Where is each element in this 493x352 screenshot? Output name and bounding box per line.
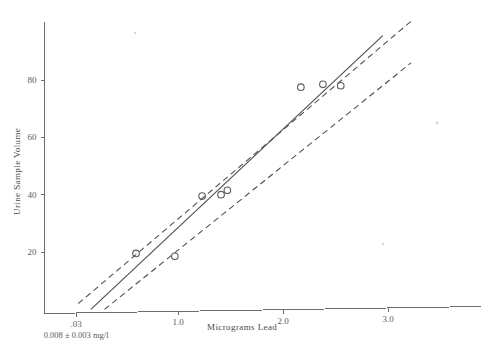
- paper-speck-icon: [382, 243, 385, 246]
- paper-speck-icon: [134, 32, 136, 34]
- x-tick-label: 3.0: [382, 314, 394, 324]
- y-tick-label: 60: [28, 132, 38, 142]
- regression-line: [91, 36, 383, 310]
- scatter-plot: 20406080 .031.02.03.0 Urine Sample Volum…: [0, 0, 493, 352]
- data-point-marker: [224, 187, 231, 194]
- paper-speck-icon: [436, 122, 439, 125]
- data-point-marker: [218, 191, 225, 198]
- x-axis-title: Micrograms Lead: [207, 322, 277, 332]
- data-point-marker: [298, 84, 305, 91]
- y-tick-label: 40: [28, 190, 38, 200]
- data-point-marker: [172, 253, 179, 260]
- concentration-annotation: 0.008 ± 0.003 mg/l: [44, 330, 110, 340]
- x-tick-label: 2.0: [277, 316, 289, 326]
- lower-confidence-band: [105, 63, 412, 310]
- x-tick-label: .03: [71, 319, 83, 329]
- y-tick-label: 80: [28, 75, 38, 85]
- chart-page: 20406080 .031.02.03.0 Urine Sample Volum…: [0, 0, 493, 352]
- x-tick-label: 1.0: [172, 317, 184, 327]
- y-tick-label: 20: [28, 247, 38, 257]
- data-point-marker: [133, 250, 140, 257]
- x-axis: [45, 307, 482, 314]
- y-axis-title: Urine Sample Volume: [12, 128, 22, 215]
- upper-confidence-band: [78, 21, 411, 303]
- y-axis-ticks: 20406080: [28, 75, 45, 257]
- data-point-marker: [320, 81, 327, 88]
- data-point-marker: [337, 82, 344, 89]
